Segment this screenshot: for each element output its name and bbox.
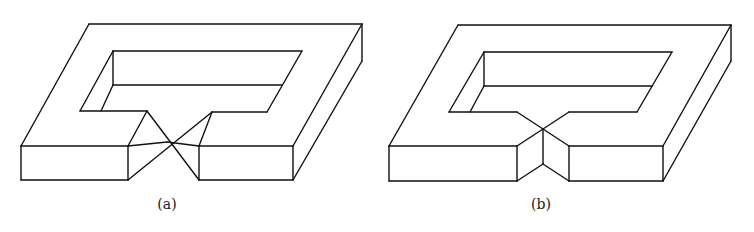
frame-edge xyxy=(80,51,113,111)
panel-b-caption: (b) xyxy=(511,196,571,212)
frame-edge xyxy=(128,111,147,146)
frame-edge xyxy=(101,85,113,111)
frame-edge xyxy=(517,129,543,146)
frame-edge xyxy=(663,61,731,181)
frame-edge xyxy=(517,112,543,129)
frame-edge xyxy=(267,51,302,112)
frame-edge xyxy=(389,25,458,146)
frame-edge xyxy=(449,52,484,112)
frame-edge xyxy=(293,24,362,146)
frame-edge xyxy=(663,25,731,146)
frame-edge xyxy=(128,142,167,146)
frame-edge xyxy=(293,61,362,180)
frame-edge xyxy=(543,129,569,146)
panel-a-caption: (a) xyxy=(137,196,197,212)
frame-edge xyxy=(517,164,543,181)
panel-a-frame-twisted-notch xyxy=(21,24,362,180)
frame-edge xyxy=(470,86,484,112)
panel-b-frame-v-notch xyxy=(389,25,731,181)
figure-canvas xyxy=(0,0,754,232)
frame-edge xyxy=(637,52,672,112)
frame-edge xyxy=(543,112,569,129)
frame-edge xyxy=(21,24,89,146)
frame-edge xyxy=(543,164,569,181)
